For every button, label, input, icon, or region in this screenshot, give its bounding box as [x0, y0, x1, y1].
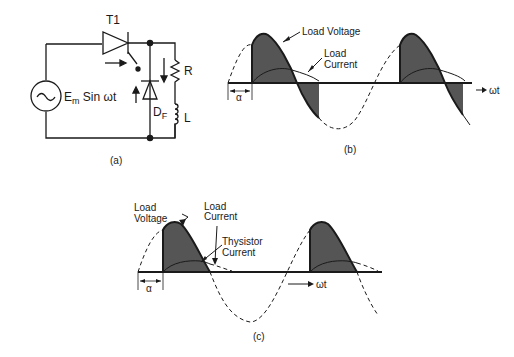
- load-current-pointer-c: [215, 226, 217, 262]
- gate-arrow-head: [120, 60, 126, 66]
- freewheel-current-dashed-1: [210, 264, 232, 271]
- wt-label-c: ωt: [316, 279, 327, 290]
- diagram-canvas: T1 Em Sin ωt DF R L (a): [0, 0, 514, 357]
- load-voltage-label-c1: Load: [134, 202, 156, 213]
- waveform-panel-c: [138, 214, 382, 322]
- supply-sine-dashed-c: [138, 230, 163, 272]
- thyristor-current-label-c1: Thysistor: [222, 236, 263, 247]
- thyristor-gate-lead: [128, 52, 137, 64]
- pointer-head: [308, 65, 314, 72]
- diode-arrow-head: [133, 87, 139, 93]
- load-current-label-1: Load: [324, 48, 346, 59]
- sine-tail: [463, 115, 470, 125]
- resistor-label: R: [184, 64, 193, 78]
- waveform-panel-b: [228, 32, 487, 129]
- alpha-label: α: [236, 92, 242, 103]
- alpha-label-c: α: [146, 283, 152, 294]
- inductor-label: L: [184, 111, 191, 125]
- junction-top: [147, 40, 152, 45]
- wt-arrow-head-c: [308, 281, 314, 287]
- supply-sine-dashed: [228, 45, 252, 83]
- load-current-label-c2: Current: [204, 211, 238, 222]
- load-current-label-2: Current: [324, 59, 358, 70]
- load-voltage-label: Load Voltage: [302, 26, 361, 37]
- supply-sine-dashed-c3: [357, 272, 378, 315]
- diode-label: DF: [153, 105, 168, 121]
- caption-a: (a): [110, 155, 122, 166]
- load-voltage-label-c2: Voltage: [134, 213, 168, 224]
- thyristor-label: T1: [106, 13, 120, 27]
- source-label: Em Sin ωt: [64, 90, 117, 106]
- inductor-icon: [175, 104, 178, 138]
- circuit-panel-a: [31, 32, 179, 141]
- wt-label: ωt: [489, 85, 500, 96]
- caption-b: (b): [344, 144, 356, 155]
- junction-bottom: [147, 135, 152, 140]
- caption-c: (c): [253, 331, 265, 342]
- gate-terminal-dot: [136, 67, 140, 71]
- thyristor-current-label-c2: Current: [222, 247, 256, 258]
- sine-wave-glyph: [37, 94, 55, 101]
- freewheel-current-dashed-2: [357, 263, 378, 271]
- load-arrow-head: [161, 76, 167, 82]
- thyristor-icon: [103, 32, 128, 54]
- pointer-head: [212, 258, 218, 265]
- pointer-head: [283, 36, 290, 42]
- wt-arrow-head: [482, 87, 487, 93]
- resistor-icon: [171, 60, 179, 84]
